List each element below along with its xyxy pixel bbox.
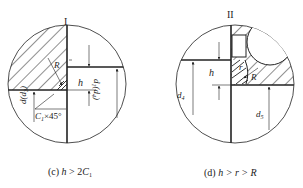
diagram-canvas (0, 0, 303, 188)
d-text: d(d (18, 92, 28, 104)
d5-sub: 5 (261, 114, 264, 120)
d3-sub: 3 (23, 89, 29, 92)
caption-var: h > r > R (218, 167, 257, 178)
left-roman-label: I (64, 17, 67, 27)
caption-rest: > 2 (67, 166, 83, 177)
left-detail-view (5, 20, 130, 150)
left-h-label: h (78, 78, 83, 88)
right-d4-label: d4 (177, 91, 185, 101)
right-roman-label: II (227, 10, 234, 20)
left-d1-d4-label: d1(d4) (91, 79, 101, 100)
d1-close: ) (92, 97, 102, 100)
left-hatched-section (5, 20, 67, 90)
caption-prefix: (d) (204, 167, 218, 178)
caption-c: C (82, 166, 89, 177)
right-d5-label: d5 (256, 110, 264, 120)
right-R-label: R (251, 73, 257, 82)
left-radius-label: R (54, 61, 60, 70)
d-close: ) (18, 86, 28, 89)
d4-sub: 4 (182, 95, 185, 101)
chamfer-angle: ×45° (44, 111, 62, 121)
caption-sub: 1 (89, 172, 92, 178)
right-h-label: h (209, 68, 214, 78)
right-r-label: r (239, 63, 243, 72)
caption-prefix: (c) (48, 166, 62, 177)
left-d-d3-label: d(d3) (19, 86, 29, 104)
right-detail-view (170, 19, 301, 150)
left-chamfer-label: C1×45° (35, 112, 62, 122)
d1-paren: (d (92, 87, 102, 95)
right-caption: (d) h > r > R (204, 168, 257, 178)
left-caption: (c) h > 2C1 (48, 167, 92, 178)
